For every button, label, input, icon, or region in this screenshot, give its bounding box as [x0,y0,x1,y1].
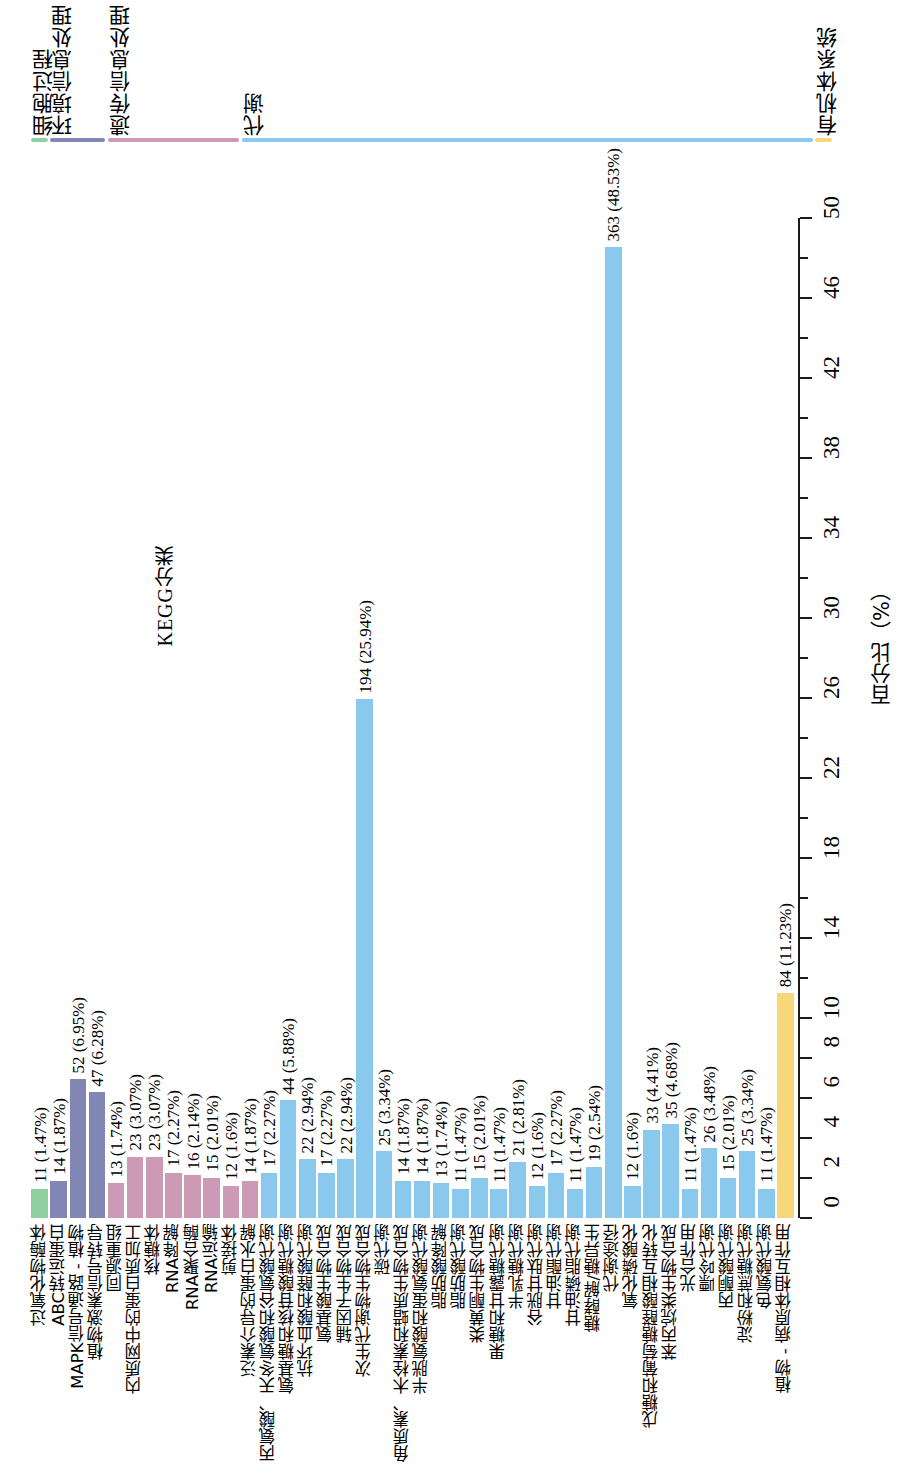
bar[interactable] [146,1157,162,1218]
bar[interactable] [490,1189,506,1218]
bar[interactable] [567,1189,583,1218]
bar-group[interactable]: 12 (1.6%)剪接体 [221,218,240,1218]
bar[interactable] [280,1100,296,1218]
bar-group[interactable]: 15 (2.01%)丙酮酸代谢 [719,218,738,1218]
bar[interactable] [701,1148,717,1218]
bar[interactable] [108,1183,124,1218]
category-group-legend: 细胞过程环境信息处理遗传信息处理代谢有机体系统 [0,0,905,150]
bar[interactable] [777,993,793,1218]
axis-tick [800,1097,812,1099]
bar-group[interactable]: 25 (3.34%)淀粉和蔗糖代谢 [738,218,757,1218]
bar[interactable] [127,1157,143,1218]
bar-group[interactable]: 17 (2.27%)氨基酸生物合成 [317,218,336,1218]
bar-group[interactable]: 14 (1.87%)ABC转运蛋白 [49,218,68,1218]
bar-group[interactable]: 11 (1.47%)过氧化物酶体 [30,218,49,1218]
bar[interactable] [242,1181,258,1218]
bar-group[interactable]: 11 (1.47%)甘油磷脂代谢 [566,218,585,1218]
bar-group[interactable]: 25 (3.34%)碳代谢 [374,218,393,1218]
category-axis-label: 植物 - 病原体相互作用 [777,1224,794,1393]
bar[interactable] [758,1189,774,1218]
bar[interactable] [739,1151,755,1218]
bar[interactable] [31,1189,47,1218]
bar-group[interactable]: 23 (3.07%)核糖体 [145,218,164,1218]
bar[interactable] [395,1181,411,1218]
bar[interactable] [414,1181,430,1218]
bar-group[interactable]: 19 (2.54%)糖酵解/糖异生 [585,218,604,1218]
bar-value-label: 14 (1.87%) [241,1098,258,1174]
bar-group[interactable]: 47 (6.28%)植物激素信号转导 [87,218,106,1218]
bar[interactable] [203,1178,219,1218]
axis-minor-tick [800,497,808,499]
bar-group[interactable]: 22 (2.94%)抗坏血酸和醛酸代谢 [298,218,317,1218]
bar[interactable] [356,699,372,1218]
bar[interactable] [605,247,621,1218]
bar[interactable] [509,1162,525,1218]
axis-tick [800,697,812,699]
bar-group[interactable]: 21 (2.81%)半乳糖代谢 [508,218,527,1218]
axis-minor-tick [800,577,808,579]
bar[interactable] [586,1167,602,1218]
bar-group[interactable]: 33 (4.41%)戊糖和葡萄糖醛酸相互转化 [642,218,661,1218]
bar-group[interactable]: 17 (2.27%)RNA降解 [164,218,183,1218]
bar[interactable] [720,1178,736,1218]
bar-value-label: 84 (11.23%) [777,903,794,987]
bar[interactable] [662,1124,678,1218]
category-axis-label: 氨基酸生物合成 [318,1224,335,1343]
bar[interactable] [318,1173,334,1218]
bar[interactable] [471,1178,487,1218]
bar[interactable] [299,1159,315,1218]
bar[interactable] [70,1079,86,1218]
category-axis-label: RNA运输 [203,1224,220,1293]
category-axis-label: 戊糖和葡萄糖醛酸相互转化 [643,1224,660,1428]
bar[interactable] [165,1173,181,1218]
bar-group[interactable]: 22 (2.94%)辅因子生物合成 [336,218,355,1218]
bar-group[interactable]: 13 (1.74%)同源重组 [107,218,126,1218]
bar-group[interactable]: 13 (1.74%)脂肪酸降解 [432,218,451,1218]
bar[interactable] [624,1186,640,1218]
bar-value-label: 15 (2.01%) [203,1095,220,1171]
bar-group[interactable]: 26 (3.48%)嘌呤代谢 [699,218,718,1218]
bar-value-label: 13 (1.74%) [108,1101,125,1177]
axis-tick-label: 46 [819,276,853,299]
bar-value-label: 12 (1.6%) [528,1112,545,1180]
bar-group[interactable]: 17 (2.27%)甘油酯代谢 [546,218,565,1218]
bar-group[interactable]: 194 (25.94%)次生代谢物生物合成 [355,218,374,1218]
bar-group[interactable]: 11 (1.47%)脂肪酸代谢 [451,218,470,1218]
bar[interactable] [682,1189,698,1218]
bar-group[interactable]: 84 (11.23%)植物 - 病原体相互作用 [776,218,795,1218]
bar[interactable] [548,1173,564,1218]
bar[interactable] [452,1189,468,1218]
bar-group[interactable]: 14 (1.87%)泛素介导的蛋白水解 [240,218,259,1218]
bar-value-label: 19 (2.54%) [586,1085,603,1161]
bar[interactable] [643,1130,659,1218]
value-axis-line [798,218,800,1218]
bar[interactable] [89,1092,105,1218]
bar[interactable] [184,1175,200,1218]
bar-group[interactable]: 52 (6.95%)MAPK信号通路 - 植物 [68,218,87,1218]
bar[interactable] [337,1159,353,1218]
bar-group[interactable]: 16 (2.14%)RNA聚合酶 [183,218,202,1218]
bar-group[interactable]: 14 (1.87%)角质素、木栓素和蜡质生物合成 [393,218,412,1218]
bar-group[interactable]: 15 (2.01%)RNA运输 [202,218,221,1218]
category-axis-label: 脂肪酸降解 [433,1224,450,1309]
bar-group[interactable]: 363 (48.53%)代谢途径 [604,218,623,1218]
bar-group[interactable]: 14 (1.87%)半胱氨酸和蛋氨酸代谢 [413,218,432,1218]
bar-group[interactable]: 35 (4.68%)苯丙烷类生物合成 [661,218,680,1218]
bar[interactable] [529,1186,545,1218]
axis-minor-tick [800,337,808,339]
bar-group[interactable]: 11 (1.47%)色氨酸代谢 [757,218,776,1218]
bar[interactable] [376,1151,392,1218]
bar[interactable] [50,1181,66,1218]
bar-group[interactable]: 44 (5.88%)氨基糖和核苷酸糖代谢 [279,218,298,1218]
bar[interactable] [223,1186,239,1218]
category-axis-label: RNA降解 [165,1224,182,1293]
bar-group[interactable]: 12 (1.6%)谷胱甘肽代谢 [527,218,546,1218]
bar-group[interactable]: 15 (2.01%)类黄酮生物合成 [470,218,489,1218]
bar-group[interactable]: 23 (3.07%)内质网中的蛋白质加工 [126,218,145,1218]
bar[interactable] [261,1173,277,1218]
bar-group[interactable]: 12 (1.6%)氧化磷酸化 [623,218,642,1218]
bar-group[interactable]: 17 (2.27%)丙氨酸、天冬氨酸和谷氨酸代谢 [260,218,279,1218]
bar-group[interactable]: 11 (1.47%)果糖和甘露糖代谢 [489,218,508,1218]
bar[interactable] [433,1183,449,1218]
bar-group[interactable]: 11 (1.47%)光合作用 [680,218,699,1218]
